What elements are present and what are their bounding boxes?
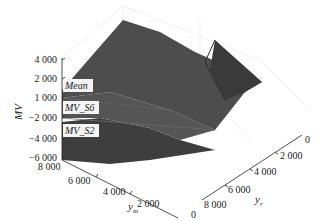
yr-tick-0: 0 bbox=[305, 134, 310, 145]
ym-axis: 8 000 6 000 4 000 2 000 0 ym bbox=[38, 160, 196, 220]
yr-axis: 0 2 000 4 000 6 000 8 000 yr bbox=[202, 134, 310, 210]
label-mean: Mean bbox=[64, 80, 88, 91]
z-tick-0: 4 000 bbox=[35, 54, 58, 65]
z-tick-2: 1 000 bbox=[35, 92, 58, 103]
ym-tick-2: 4 000 bbox=[103, 186, 126, 197]
z-tick-4: −4 000 bbox=[29, 133, 57, 144]
ym-tick-3: 2 000 bbox=[137, 198, 160, 209]
ym-tick-4: 0 bbox=[191, 209, 196, 220]
z-tick-1: 2 000 bbox=[35, 73, 58, 84]
z-axis-label: MV bbox=[12, 103, 24, 121]
z-axis: 4 000 2 000 1 000 −2 000 −4 000 −6 000 M… bbox=[12, 54, 65, 163]
yr-tick-2: 4 000 bbox=[254, 166, 277, 177]
yr-tick-1: 2 000 bbox=[280, 150, 303, 161]
yr-axis-label: yr bbox=[254, 193, 263, 208]
yr-tick-4: 8 000 bbox=[204, 199, 227, 210]
z-tick-3: −2 000 bbox=[29, 112, 57, 123]
label-mv-s6: MV_S6 bbox=[64, 102, 94, 113]
ym-tick-1: 6 000 bbox=[68, 175, 91, 186]
yr-tick-3: 6 000 bbox=[228, 184, 251, 195]
surface-plot: 4 000 2 000 1 000 −2 000 −4 000 −6 000 M… bbox=[0, 0, 319, 221]
label-mv-s2: MV_S2 bbox=[64, 125, 94, 136]
ym-tick-0: 8 000 bbox=[38, 161, 61, 172]
